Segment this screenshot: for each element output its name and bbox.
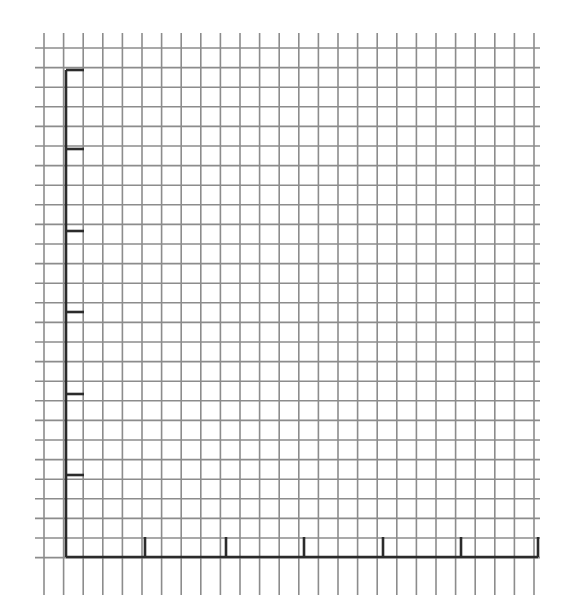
graph-paper bbox=[0, 0, 574, 612]
background bbox=[0, 0, 574, 612]
